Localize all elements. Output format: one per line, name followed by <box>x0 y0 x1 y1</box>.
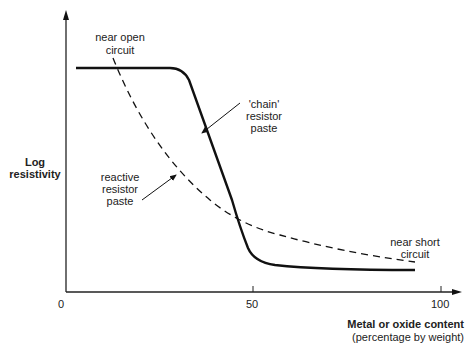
annotation-near-short-line2: circuit <box>380 248 450 260</box>
x-axis-subtitle: (percentage by weight) <box>330 331 464 343</box>
y-axis-label-line2: resistivity <box>4 168 66 180</box>
series-reactive-resistor-paste <box>113 58 415 262</box>
chain-pointer-arrow <box>202 103 240 133</box>
x-axis-title: Metal or oxide content <box>330 318 464 330</box>
y-axis-label-line1: Log <box>6 156 64 168</box>
annotation-near-open-line1: near open <box>90 31 150 43</box>
x-axis-arrow-icon <box>452 289 462 295</box>
x-tick-label-100: 100 <box>431 298 449 310</box>
annotation-reactive-line1: reactive <box>94 171 146 183</box>
annotation-chain-line3: paste <box>240 122 288 134</box>
reactive-pointer-arrow <box>142 175 176 200</box>
annotation-reactive-line2: resistor <box>94 183 146 195</box>
y-axis-arrow-icon <box>63 10 69 20</box>
annotation-near-short-line1: near short <box>380 236 450 248</box>
x-tick-label-0: 0 <box>58 298 64 310</box>
annotation-reactive-line3: paste <box>94 195 146 207</box>
x-tick-label-50: 50 <box>246 298 258 310</box>
annotation-chain-line1: 'chain' <box>240 98 288 110</box>
chart-canvas <box>0 0 474 348</box>
annotation-chain-line2: resistor <box>240 110 288 122</box>
annotation-near-open-line2: circuit <box>90 44 150 56</box>
